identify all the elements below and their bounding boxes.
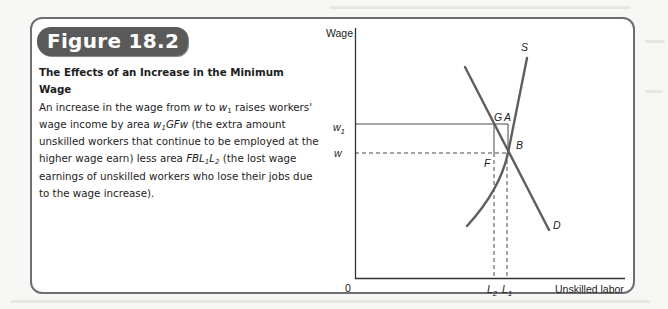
point-B-label: B: [516, 139, 523, 151]
L2-sub: 2: [492, 289, 498, 298]
origin-label: 0: [345, 282, 351, 294]
point-G-label: G: [494, 111, 502, 123]
L2-tick-label: L2: [487, 283, 498, 298]
w1-tick-label: w1: [333, 121, 345, 136]
demand-label: D: [553, 219, 561, 231]
w1-line: [355, 124, 508, 153]
minimum-wage-chart: Wage w1 w 0 L2 L1 Unskilled labor S D G …: [0, 0, 668, 309]
w-tick-label: w: [334, 147, 343, 159]
point-F-label: F: [484, 157, 491, 169]
L1-sub: 1: [508, 289, 512, 298]
point-A-label: A: [503, 111, 511, 123]
L1-tick-label: L1: [502, 283, 512, 298]
supply-label: S: [521, 41, 528, 53]
w1-sub: 1: [341, 127, 345, 136]
y-axis-label: Wage: [326, 27, 353, 39]
x-axis-label: Unskilled labor: [555, 283, 624, 295]
